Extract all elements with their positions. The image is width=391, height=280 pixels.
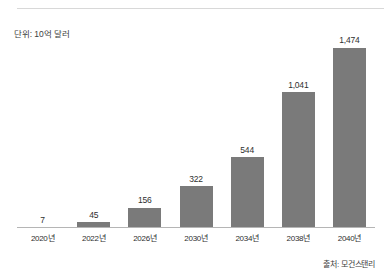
bar-rect[interactable] — [180, 186, 213, 228]
bar-group: 1,474 — [333, 36, 366, 228]
bar-group: 7 — [26, 36, 59, 228]
bar-rect[interactable] — [128, 208, 161, 228]
x-axis-tick-label: 2022년 — [68, 232, 119, 243]
bar-group: 45 — [77, 36, 110, 228]
bar-group: 1,041 — [282, 36, 315, 228]
bar-value-label: 45 — [89, 211, 98, 220]
bar-group: 156 — [128, 36, 161, 228]
source-label: 출처: 모건스탠리 — [323, 258, 375, 269]
bar-value-label: 7 — [40, 216, 45, 225]
bar-value-label: 1,041 — [288, 81, 308, 90]
x-axis-tick-label: 2034년 — [222, 232, 273, 243]
bar-chart-figure: 단위: 10억 달러 7451563225441,0411,474 출처: 모건… — [0, 0, 391, 280]
x-axis-baseline — [17, 227, 375, 228]
x-axis-tick-label: 2030년 — [170, 232, 221, 243]
x-axis-tick-label: 2040년 — [324, 232, 375, 243]
bar-value-label: 322 — [189, 175, 203, 184]
plot-area: 7451563225441,0411,474 — [17, 36, 375, 228]
bar-group: 544 — [231, 36, 264, 228]
x-axis-tick-label: 2038년 — [273, 232, 324, 243]
bar-value-label: 156 — [138, 196, 152, 205]
bar-value-label: 544 — [240, 146, 254, 155]
bar-rect[interactable] — [231, 157, 264, 228]
x-axis-tick-label: 2026년 — [119, 232, 170, 243]
top-divider-rule — [17, 8, 384, 9]
bar-rect[interactable] — [282, 92, 315, 228]
bar-value-label: 1,474 — [339, 36, 359, 45]
bar-rect[interactable] — [333, 48, 366, 229]
bar-group: 322 — [180, 36, 213, 228]
x-axis-tick-label: 2020년 — [17, 232, 68, 243]
